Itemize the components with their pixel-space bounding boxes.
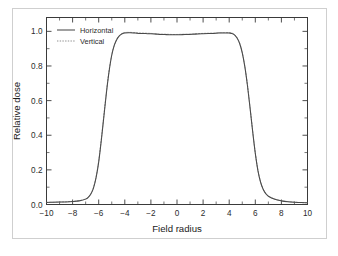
x-tick-label: 0 xyxy=(175,209,180,218)
x-tick-label: −2 xyxy=(146,209,156,218)
y-tick-label: 0.0 xyxy=(31,201,43,210)
x-tick-label: 8 xyxy=(279,209,284,218)
series-line-vertical xyxy=(47,32,308,202)
x-tick-label: −10 xyxy=(40,209,54,218)
y-axis-title: Relative dose xyxy=(11,82,22,140)
y-axis-tick-labels: 0.00.20.40.60.81.0 xyxy=(31,27,43,209)
legend-label-horizontal: Horizontal xyxy=(80,26,114,35)
x-tick-label: 4 xyxy=(227,209,232,218)
x-tick-label: −8 xyxy=(68,209,78,218)
x-tick-label: −6 xyxy=(94,209,104,218)
chart-legend: Horizontal Vertical xyxy=(57,26,114,46)
chart-svg: −10−8−6−4−20246810 0.00.20.40.60.81.0 Ho… xyxy=(0,0,338,256)
y-tick-label: 0.8 xyxy=(31,62,43,71)
y-tick-label: 1.0 xyxy=(31,27,43,36)
y-tick-label: 0.4 xyxy=(31,131,43,140)
x-tick-label: 2 xyxy=(201,209,206,218)
x-tick-label: 6 xyxy=(253,209,258,218)
x-tick-label: −4 xyxy=(120,209,130,218)
legend-label-vertical: Vertical xyxy=(80,37,105,46)
x-axis-tick-labels: −10−8−6−4−20246810 xyxy=(40,209,313,218)
x-axis-title: Field radius xyxy=(152,223,202,234)
y-tick-label: 0.6 xyxy=(31,97,43,106)
x-tick-label: 10 xyxy=(303,209,313,218)
figure-root: −10−8−6−4−20246810 0.00.20.40.60.81.0 Ho… xyxy=(0,0,338,256)
series-line-horizontal xyxy=(47,33,308,203)
y-axis-ticks xyxy=(47,31,308,204)
y-tick-label: 0.2 xyxy=(31,166,43,175)
dose-profile-chart: −10−8−6−4−20246810 0.00.20.40.60.81.0 Ho… xyxy=(0,0,338,256)
